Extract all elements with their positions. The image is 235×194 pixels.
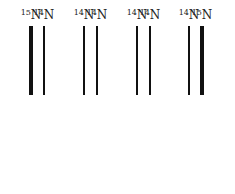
thin-dna-band [136, 26, 138, 95]
band-label: 14N [140, 8, 161, 22]
isotope-mass-number: 14 [87, 8, 97, 17]
thin-dna-band [83, 26, 85, 95]
isotope-mass-number: 14 [74, 8, 84, 17]
thin-dna-band [188, 26, 190, 95]
element-symbol: N [44, 8, 55, 22]
isotope-mass-number: 14 [140, 8, 150, 17]
isotope-mass-number: 15 [192, 8, 202, 17]
element-symbol: N [97, 8, 108, 22]
band-label: 14N [87, 8, 108, 22]
thick-dna-band [29, 26, 33, 95]
thick-dna-band [200, 26, 204, 95]
element-symbol: N [202, 8, 213, 22]
thin-dna-band [96, 26, 98, 95]
element-symbol: N [150, 8, 161, 22]
isotope-mass-number: 14 [34, 8, 44, 17]
isotope-mass-number: 14 [127, 8, 137, 17]
isotope-mass-number: 14 [179, 8, 189, 17]
thin-dna-band [149, 26, 151, 95]
band-label: 15N [192, 8, 213, 22]
thin-dna-band [43, 26, 45, 95]
isotope-mass-number: 15 [21, 8, 31, 17]
band-label: 14N [34, 8, 55, 22]
